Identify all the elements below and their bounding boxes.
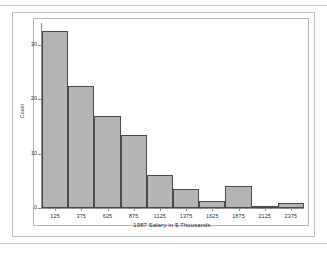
y-axis-tick [38, 45, 41, 46]
x-axis-tick [81, 208, 82, 211]
x-axis-tick [160, 208, 161, 211]
histogram-bar [68, 86, 94, 208]
y-axis-tick [38, 154, 41, 155]
histogram-bar [225, 186, 251, 208]
histogram-bar [42, 31, 68, 208]
histogram-bar [147, 175, 173, 208]
histogram-bar [278, 203, 304, 208]
x-axis-tick [291, 208, 292, 211]
x-axis-tick [212, 208, 213, 211]
y-axis-tick [38, 99, 41, 100]
histogram-bar [94, 116, 120, 209]
y-axis-tick-label: 0 [19, 205, 37, 210]
histogram-bar [121, 135, 147, 208]
histogram-bar [199, 201, 225, 208]
y-axis-tick-label: 30 [19, 42, 37, 47]
page-rule-top [0, 5, 327, 6]
x-axis-tick [55, 208, 56, 211]
figure-panel: 0102030 12537562587511251375162518752125… [12, 12, 315, 237]
x-axis-tick-label: 2375 [274, 213, 308, 220]
histogram-bars [42, 23, 304, 208]
page-rule-bottom [0, 243, 327, 244]
x-axis-tick [134, 208, 135, 211]
histogram-bar [252, 206, 278, 208]
y-axis-tick [38, 208, 41, 209]
y-axis-tick-label: 10 [19, 151, 37, 156]
x-axis-title: 1987 Salary in $ Thousands [41, 222, 303, 228]
x-axis-tick [265, 208, 266, 211]
x-axis-tick [186, 208, 187, 211]
x-axis-tick [108, 208, 109, 211]
y-axis-title: Count [19, 96, 25, 126]
document-frame: 0102030 12537562587511251375162518752125… [0, 0, 327, 257]
histogram-bar [173, 189, 199, 208]
x-axis-tick [239, 208, 240, 211]
